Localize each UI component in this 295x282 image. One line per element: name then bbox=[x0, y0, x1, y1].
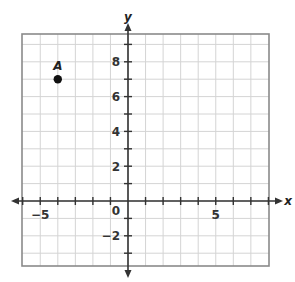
axes bbox=[11, 23, 283, 278]
y-tick-label: 6 bbox=[112, 90, 120, 104]
x-tick-label: −5 bbox=[31, 208, 49, 222]
y-axis-label: y bbox=[124, 10, 133, 24]
x-axis-right-arrow-icon bbox=[275, 198, 283, 205]
y-axis-up-arrow-icon bbox=[125, 23, 132, 31]
x-axis-label: x bbox=[283, 194, 293, 208]
origin-label: 0 bbox=[112, 204, 120, 218]
points: A bbox=[52, 59, 62, 83]
point-label: A bbox=[52, 59, 62, 73]
point-a bbox=[54, 75, 62, 83]
y-tick-label: 8 bbox=[112, 55, 120, 69]
y-tick-label: 4 bbox=[112, 125, 120, 139]
x-tick-label: 5 bbox=[212, 208, 220, 222]
x-axis-left-arrow-icon bbox=[11, 198, 19, 205]
y-axis-down-arrow-icon bbox=[125, 270, 132, 278]
coordinate-plane: −558642−20xy A bbox=[0, 0, 295, 282]
y-tick-label: 2 bbox=[112, 160, 120, 174]
tick-labels: −558642−20xy bbox=[31, 10, 293, 243]
y-tick-label: −2 bbox=[102, 229, 120, 243]
